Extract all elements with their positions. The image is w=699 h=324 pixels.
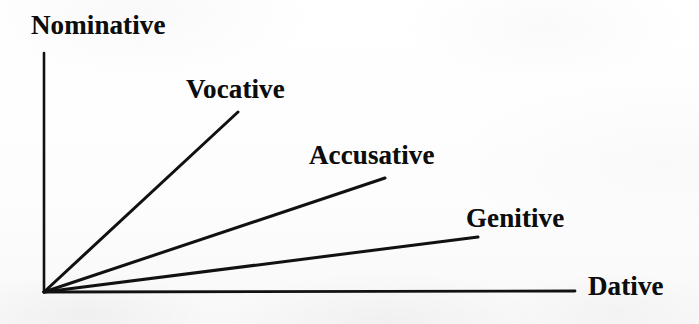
- label-genitive: Genitive: [466, 205, 564, 232]
- label-dative: Dative: [588, 273, 664, 300]
- ray-vocative: [44, 112, 238, 292]
- label-nominative: Nominative: [31, 12, 165, 39]
- label-vocative: Vocative: [186, 76, 285, 103]
- ray-genitive: [44, 237, 478, 292]
- axis-horizontal-dative: [44, 291, 575, 292]
- ray-accusative: [44, 178, 385, 292]
- label-accusative: Accusative: [309, 142, 434, 169]
- figure-canvas: Nominative Vocative Accusative Genitive …: [0, 0, 699, 324]
